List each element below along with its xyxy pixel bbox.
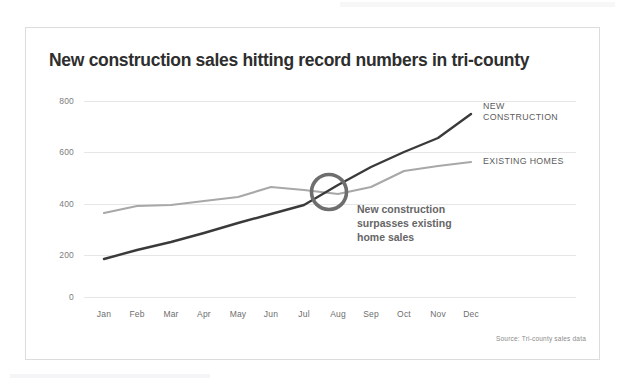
x-tick-nov: Nov: [421, 309, 455, 319]
x-tick-dec: Dec: [454, 309, 488, 319]
y-tick-0: 0: [40, 292, 74, 302]
y-tick-400: 400: [40, 199, 74, 209]
chart-card: New construction sales hitting record nu…: [25, 27, 600, 360]
crossover-annotation: New construction surpasses existing home…: [357, 202, 452, 244]
x-tick-jun: Jun: [254, 309, 288, 319]
series-label-new-construction: NEW CONSTRUCTION: [483, 101, 558, 123]
gridlines: [84, 102, 576, 298]
x-tick-jan: Jan: [87, 309, 121, 319]
x-tick-feb: Feb: [120, 309, 154, 319]
x-tick-jul: Jul: [287, 309, 321, 319]
x-tick-oct: Oct: [387, 309, 421, 319]
series-label-new-construction-line2: CONSTRUCTION: [483, 112, 558, 122]
x-tick-sep: Sep: [354, 309, 388, 319]
x-tick-apr: Apr: [187, 309, 221, 319]
series-label-existing-homes: EXISTING HOMES: [483, 156, 564, 167]
crossover-annotation-line1: New construction: [357, 203, 445, 215]
crossover-annotation-line2: surpasses existing: [357, 217, 452, 229]
y-tick-600: 600: [40, 147, 74, 157]
x-tick-aug: Aug: [321, 309, 355, 319]
x-tick-mar: Mar: [154, 309, 188, 319]
y-tick-200: 200: [40, 250, 74, 260]
chart-plot-area: 800 600 400 200 0 Jan Feb Mar Apr May Ju…: [26, 28, 601, 361]
source-note: Source: Tri-county sales data: [496, 335, 586, 342]
crossover-annotation-line3: home sales: [357, 231, 414, 243]
top-edge-artifact: [340, 2, 615, 7]
x-tick-may: May: [221, 309, 255, 319]
bottom-edge-artifact: [10, 374, 210, 378]
series-label-new-construction-line1: NEW: [483, 101, 505, 111]
y-tick-800: 800: [40, 96, 74, 106]
